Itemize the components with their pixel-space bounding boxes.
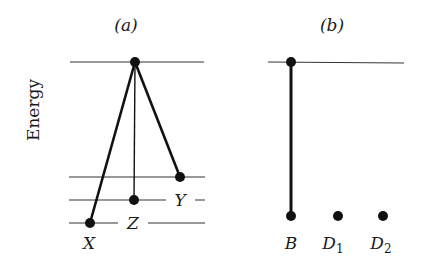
panel-b-title: (b) <box>320 15 344 35</box>
label-x: X <box>81 233 96 253</box>
energy-level-diagram: Energy (a) X Z Y (b) B D1 D2 <box>0 0 421 274</box>
state-dot-y <box>175 172 185 182</box>
state-dot-d1 <box>333 211 343 221</box>
panel-b: (b) B D1 D2 <box>268 15 404 256</box>
label-y: Y <box>174 190 187 210</box>
panel-a: (a) X Z Y <box>69 15 205 253</box>
panel-a-title: (a) <box>114 15 137 35</box>
label-d1: D1 <box>321 233 343 256</box>
state-dot-z <box>129 195 139 205</box>
state-dot-top-a <box>130 57 140 67</box>
transition-top-to-y <box>135 62 180 177</box>
label-z: Z <box>126 213 140 233</box>
transition-top-to-x <box>90 62 135 223</box>
label-b: B <box>284 233 298 253</box>
energy-axis-label: Energy <box>23 79 43 141</box>
state-dot-d2 <box>378 211 388 221</box>
state-dot-x <box>85 218 95 228</box>
transition-top-to-z <box>134 62 135 200</box>
state-dot-top-b <box>286 57 296 67</box>
label-d2: D2 <box>369 233 391 256</box>
state-dot-b <box>286 211 296 221</box>
